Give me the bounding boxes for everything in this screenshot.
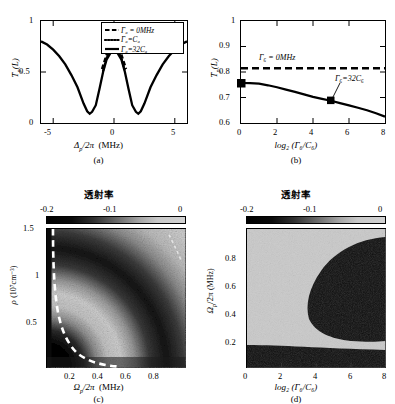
panel-d-cbtick-mid: -0.1 (303, 204, 316, 214)
panel-b-ytick-1: 1 (231, 15, 235, 25)
panel-c-plot-area (46, 228, 186, 368)
panel-c-colorbar-title: 透射率 (0, 187, 197, 201)
panel-d-ytick-02: 0.2 (225, 337, 236, 347)
panel-d-xtick-8: 8 (382, 371, 386, 381)
panel-d-ytick-06: 0.6 (225, 281, 236, 291)
panel-d-colorbar-title: 透射率 (197, 187, 395, 201)
panel-d-ylabel-unit: (MHz) (206, 268, 215, 290)
panel-c-colorbar (46, 216, 186, 224)
panel-d-xtick-2: 2 (278, 371, 282, 381)
panel-a-xtick-0: 0 (110, 127, 114, 137)
legend-label-0mhz: Γ₆ = 0MHz (121, 26, 154, 35)
panel-b: T̄p(L) 1 0.9 0.8 0.7 0.6 (197, 0, 395, 185)
curve-solid-32c6-b (241, 83, 385, 117)
panel-b-ylabel-tail: (L) (209, 58, 219, 69)
panel-d-ytick-08: 0.8 (225, 253, 236, 263)
panel-c-xlabel-main: /2π (83, 382, 95, 392)
panel-b-ylabel-sym: T̄ (209, 72, 219, 77)
panel-c-cbtick-max: 0 (178, 204, 182, 214)
panel-c-xlabel: Ωp/2π (MHz) (0, 382, 197, 394)
legend-label-c6: Γ₆=C₆ (121, 35, 140, 44)
panel-a: T̄p(L) 1 0.5 0 (0, 0, 197, 185)
panel-b-annotation-solid: Γ₆=32C₆ (335, 74, 364, 83)
panel-c-xtick-08: 0.8 (148, 371, 159, 381)
panel-b-ytick-08: 0.8 (219, 66, 230, 76)
panel-d-xtick-0: 0 (243, 371, 247, 381)
panel-c-xtick-02: 0.2 (64, 371, 75, 381)
panel-a-xtick-5: 5 (171, 127, 175, 137)
panel-b-caption: (b) (197, 155, 395, 165)
panel-a-legend: Γ₆ = 0MHz Γ₆=C₆ Γ₆=32C₆ (101, 22, 184, 54)
panel-c-xtick-04: 0.4 (92, 371, 103, 381)
panel-d-ytick-04: 0.4 (225, 309, 236, 319)
panel-d-cbtick-max: 0 (378, 204, 382, 214)
panel-a-xlabel-unit: (MHz) (98, 140, 123, 150)
panel-b-xtick-8: 8 (381, 127, 385, 137)
panel-c: 透射率 -0.2 -0.1 0 ρ (10⁷cm⁻³) 1.5 1 0.5 (0, 185, 197, 400)
panel-a-ytick-0: 0 (29, 117, 33, 127)
panel-d: 透射率 -0.2 -0.1 0 Ωp/2π (MHz) 0.8 0.6 0.4 … (197, 185, 395, 400)
panel-d-xtick-4: 4 (313, 371, 317, 381)
panel-a-xtick--5: -5 (44, 127, 51, 137)
panel-d-cbtick-min: -0.2 (240, 204, 253, 214)
panel-c-ytick-05: 0.5 (26, 317, 37, 327)
panel-b-ytick-07: 0.7 (219, 92, 230, 102)
panel-a-caption: (a) (0, 155, 197, 165)
panel-b-ytick-06: 0.6 (219, 117, 230, 127)
panel-b-xtick-6: 6 (345, 127, 349, 137)
panel-d-heatmap (247, 229, 385, 367)
panel-d-xtick-6: 6 (348, 371, 352, 381)
panel-b-annotation-dashed: Γ₆ = 0MHz (259, 53, 295, 62)
panel-d-plot-area (246, 228, 386, 368)
panel-c-caption: (c) (0, 394, 197, 404)
panel-a-xlabel: Δp/2π (MHz) (0, 140, 197, 152)
panel-a-ytick-1: 1 (29, 15, 33, 25)
panel-d-colorbar (246, 216, 386, 224)
panel-c-cbtick-min: -0.2 (40, 204, 53, 214)
panel-d-ylabel-main: /2π (205, 292, 215, 304)
panel-d-ylabel-sym: Ω (205, 307, 215, 314)
panel-d-ylabel-sub: p (211, 304, 217, 307)
panel-d-ylabel: Ωp/2π (MHz) (205, 253, 217, 329)
panel-a-xlabel-main: /2π (82, 140, 94, 150)
panel-c-ylabel: ρ (10⁷cm⁻³) (8, 250, 18, 320)
marker-square-b-5 (327, 97, 335, 105)
panel-b-plot-area (240, 20, 386, 124)
panel-c-ylabel-unit: (10⁷cm⁻³) (9, 266, 18, 298)
legend-swatch-dashed (105, 27, 119, 33)
panel-b-curves (241, 21, 385, 123)
marker-square-b-0 (237, 79, 246, 88)
panel-b-ytick-09: 0.9 (219, 40, 230, 50)
panel-c-ylabel-sym: ρ (8, 300, 18, 304)
panel-c-ytick-1: 1 (35, 270, 39, 280)
panel-c-cbtick-mid: -0.1 (103, 204, 116, 214)
legend-swatch-solid (105, 46, 119, 52)
panel-c-heatmap (47, 229, 185, 367)
panel-c-xtick-06: 0.6 (120, 371, 131, 381)
panel-d-xlabel: log₂ (Γ₆/C₆) (197, 382, 395, 392)
panel-c-ytick-15: 1.5 (23, 223, 34, 233)
legend-swatch-dotted (105, 37, 119, 43)
panel-b-xtick-2: 2 (273, 127, 277, 137)
panel-b-xlabel: log₂ (Γ₆/C₆) (197, 140, 395, 150)
panel-c-xlabel-unit: (MHz) (99, 382, 124, 392)
panel-b-xtick-4: 4 (309, 127, 313, 137)
panel-d-caption: (d) (197, 394, 395, 404)
panel-a-ytick-05: 0.5 (19, 66, 30, 76)
legend-label-32c6: Γ₆=32C₆ (121, 45, 147, 54)
panel-b-xtick-0: 0 (237, 127, 241, 137)
annotation-arrow-b (333, 83, 340, 97)
